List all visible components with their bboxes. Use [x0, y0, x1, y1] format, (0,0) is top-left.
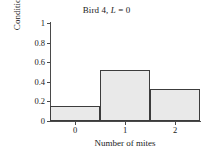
x-axis-tick-label: 0: [65, 126, 85, 135]
chart-title-prefix: Bird 4,: [83, 5, 111, 15]
y-axis-label: Conditional probability: [10, 0, 24, 37]
y-axis-tick-label: 0.6: [34, 58, 45, 67]
chart-title-suffix: = 0: [116, 5, 130, 15]
y-axis-tick-label: 1: [41, 19, 45, 28]
bar-chart-figure: Bird 4, L = 0 Conditional probability Nu…: [0, 0, 213, 160]
y-axis-tick-label: 0.4: [34, 78, 45, 87]
y-axis-tick-label: 0: [41, 117, 45, 126]
y-axis-tick-label: 0.2: [34, 97, 45, 106]
x-axis-label: Number of mites: [50, 138, 200, 148]
chart-title: Bird 4, L = 0: [0, 5, 213, 15]
x-axis-tick-label: 2: [165, 126, 185, 135]
bar: [100, 70, 150, 121]
plot-area: [50, 23, 200, 121]
bar: [50, 106, 100, 121]
y-axis-tick-label: 0.8: [34, 39, 45, 48]
bar: [150, 89, 200, 121]
y-axis-tick: [47, 121, 50, 122]
x-axis-tick-label: 1: [115, 126, 135, 135]
